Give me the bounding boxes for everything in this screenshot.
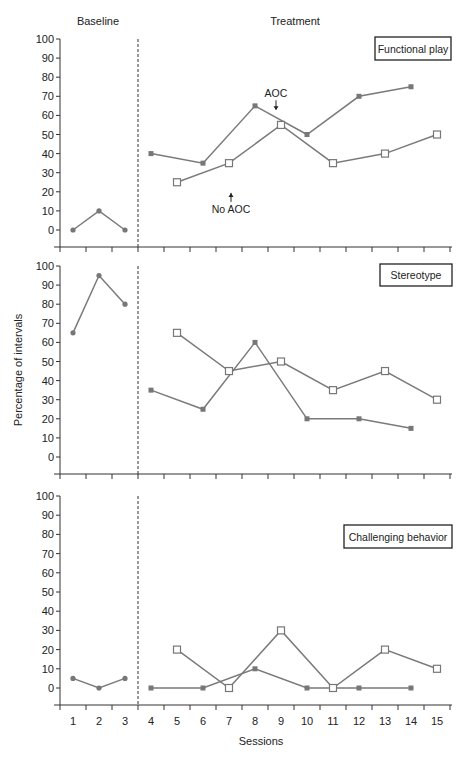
data-point-open-square — [278, 627, 285, 634]
data-point-circle — [70, 330, 75, 335]
y-axis-label: Percentage of intervals — [12, 313, 24, 426]
data-point-filled-square — [305, 686, 310, 691]
data-point-open-square — [434, 665, 441, 672]
x-tick-label: 12 — [353, 715, 365, 727]
arrow-head-icon — [229, 193, 234, 197]
data-point-filled-square — [305, 416, 310, 421]
y-tick-label: 40 — [42, 148, 54, 160]
y-tick-label: 40 — [42, 375, 54, 387]
x-tick-label: 11 — [327, 715, 338, 727]
data-point-open-square — [330, 685, 337, 692]
x-tick-label: 10 — [301, 715, 313, 727]
data-point-open-square — [330, 160, 337, 167]
x-tick-label: 15 — [431, 715, 443, 727]
y-tick-label: 0 — [48, 682, 54, 694]
y-tick-label: 10 — [42, 663, 54, 675]
series-line-no-aoc — [177, 333, 437, 400]
x-tick-label: 6 — [200, 715, 206, 727]
arrow-head-icon — [274, 106, 279, 110]
panel-challenging-behavior: 0102030405060708090100123456789101112131… — [36, 490, 452, 727]
y-tick-label: 90 — [42, 279, 54, 291]
data-point-filled-square — [409, 686, 414, 691]
data-point-open-square — [226, 368, 233, 375]
x-axis-label: Sessions — [239, 735, 284, 747]
x-tick-label: 5 — [174, 715, 180, 727]
data-point-circle — [96, 208, 101, 213]
y-tick-label: 20 — [42, 644, 54, 656]
y-tick-label: 80 — [42, 298, 54, 310]
data-point-open-square — [382, 646, 389, 653]
data-point-open-square — [174, 646, 181, 653]
x-tick-label: 7 — [226, 715, 232, 727]
y-tick-label: 10 — [42, 432, 54, 444]
data-point-open-square — [434, 131, 441, 138]
series-line-baseline — [73, 211, 125, 230]
annotation-no-aoc: No AOC — [212, 203, 251, 215]
data-point-circle — [96, 685, 101, 690]
data-point-circle — [96, 273, 101, 278]
data-point-open-square — [382, 368, 389, 375]
data-point-filled-square — [409, 426, 414, 431]
series-line-aoc — [151, 669, 411, 688]
y-tick-label: 30 — [42, 167, 54, 179]
y-tick-label: 70 — [42, 90, 54, 102]
data-point-open-square — [226, 685, 233, 692]
y-tick-label: 0 — [48, 451, 54, 463]
data-point-filled-square — [201, 161, 206, 166]
x-tick-label: 8 — [252, 715, 258, 727]
data-point-circle — [70, 676, 75, 681]
data-point-filled-square — [201, 686, 206, 691]
data-point-filled-square — [149, 151, 154, 156]
data-point-open-square — [382, 150, 389, 157]
x-tick-label: 2 — [96, 715, 102, 727]
y-tick-label: 30 — [42, 394, 54, 406]
data-point-filled-square — [305, 132, 310, 137]
data-point-filled-square — [149, 686, 154, 691]
x-tick-label: 1 — [70, 715, 76, 727]
annotation-aoc: AOC — [265, 87, 288, 99]
panels: 0102030405060708090100Functional playAOC… — [36, 33, 452, 727]
y-tick-label: 20 — [42, 186, 54, 198]
y-tick-label: 70 — [42, 548, 54, 560]
baseline-phase-label: Baseline — [77, 15, 119, 27]
y-tick-label: 60 — [42, 336, 54, 348]
data-point-open-square — [330, 387, 337, 394]
data-point-filled-square — [357, 686, 362, 691]
data-point-filled-square — [253, 340, 258, 345]
y-tick-label: 80 — [42, 71, 54, 83]
data-point-open-square — [434, 396, 441, 403]
series-line-baseline — [73, 276, 125, 333]
panel-label: Stereotype — [391, 269, 442, 281]
panel-label: Challenging behavior — [349, 531, 448, 543]
panel-functional-play: 0102030405060708090100Functional playAOC… — [36, 33, 452, 252]
y-tick-label: 50 — [42, 586, 54, 598]
treatment-phase-label: Treatment — [270, 15, 320, 27]
y-tick-label: 80 — [42, 528, 54, 540]
data-point-open-square — [174, 179, 181, 186]
y-tick-label: 40 — [42, 605, 54, 617]
data-point-filled-square — [357, 416, 362, 421]
chart: Baseline Treatment Percentage of interva… — [0, 0, 472, 757]
data-point-filled-square — [253, 103, 258, 108]
data-point-circle — [122, 302, 127, 307]
data-point-open-square — [278, 121, 285, 128]
data-point-open-square — [226, 160, 233, 167]
y-tick-label: 60 — [42, 567, 54, 579]
y-tick-label: 50 — [42, 356, 54, 368]
data-point-circle — [122, 227, 127, 232]
series-line-aoc — [151, 342, 411, 428]
x-tick-label: 14 — [405, 715, 417, 727]
y-tick-label: 90 — [42, 509, 54, 521]
data-point-filled-square — [409, 84, 414, 89]
y-tick-label: 70 — [42, 317, 54, 329]
data-point-filled-square — [357, 94, 362, 99]
x-tick-label: 3 — [122, 715, 128, 727]
y-tick-label: 90 — [42, 52, 54, 64]
y-tick-label: 100 — [36, 490, 54, 502]
y-tick-label: 0 — [48, 224, 54, 236]
y-tick-label: 50 — [42, 129, 54, 141]
y-tick-label: 100 — [36, 260, 54, 272]
y-tick-label: 100 — [36, 33, 54, 45]
series-line-no-aoc — [177, 630, 437, 688]
panel-label: Functional play — [378, 43, 449, 55]
